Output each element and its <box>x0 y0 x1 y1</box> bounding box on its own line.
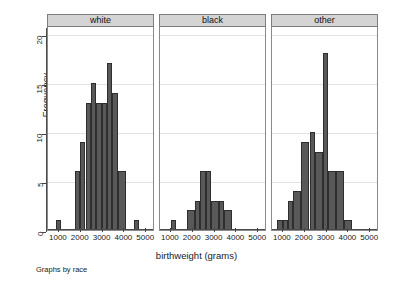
plot-area-white <box>47 27 154 231</box>
histogram-bar <box>224 210 232 230</box>
panel-other: other10002000300040005000 <box>271 14 378 231</box>
x-tick-mark <box>192 228 193 232</box>
x-tick-label: 5000 <box>136 233 154 242</box>
x-tick-mark <box>102 228 103 232</box>
x-axis-ticks-white: 10002000300040005000 <box>47 232 154 246</box>
figure-note: Graphs by race <box>36 265 87 274</box>
x-tick-mark <box>123 228 124 232</box>
x-tick-label: 5000 <box>248 233 266 242</box>
x-tick-label: 4000 <box>115 233 133 242</box>
histogram-bar <box>118 171 126 230</box>
bars-other <box>272 27 377 230</box>
x-tick-mark <box>170 228 171 232</box>
panel-white: white10002000300040005000 <box>47 14 154 231</box>
x-tick-label: 1000 <box>49 233 67 242</box>
bars-black <box>160 27 265 230</box>
x-tick-mark <box>369 228 370 232</box>
panel-title-other: other <box>271 14 378 27</box>
histogram-bar <box>315 152 323 230</box>
bars-white <box>48 27 153 230</box>
x-tick-label: 4000 <box>227 233 245 242</box>
x-tick-mark <box>347 228 348 232</box>
histogram-bar <box>301 142 309 230</box>
x-tick-mark <box>80 228 81 232</box>
x-tick-label: 2000 <box>295 233 313 242</box>
x-tick-mark <box>304 228 305 232</box>
x-tick-label: 3000 <box>205 233 223 242</box>
histogram-bar <box>328 171 336 230</box>
y-tick-mark <box>42 232 46 233</box>
histogram-bar <box>336 171 344 230</box>
x-tick-label: 2000 <box>183 233 201 242</box>
histogram-figure: Frequency 05101520 white1000200030004000… <box>0 0 393 289</box>
x-tick-label: 4000 <box>339 233 357 242</box>
x-axis-line <box>160 229 265 230</box>
x-axis-line <box>48 229 153 230</box>
x-axis-label: birthweight (grams) <box>0 250 393 261</box>
histogram-bar <box>211 201 219 230</box>
x-tick-mark <box>326 228 327 232</box>
plot-area-black <box>159 27 266 231</box>
y-axis-ticks: 05101520 <box>20 28 46 232</box>
panel-black: black10002000300040005000 <box>159 14 266 231</box>
histogram-bar <box>293 191 301 230</box>
x-tick-mark <box>235 228 236 232</box>
x-tick-label: 1000 <box>161 233 179 242</box>
x-axis-line <box>272 229 377 230</box>
x-tick-label: 2000 <box>71 233 89 242</box>
x-tick-label: 3000 <box>93 233 111 242</box>
x-tick-mark <box>58 228 59 232</box>
plot-area-other <box>271 27 378 231</box>
panel-title-white: white <box>47 14 154 27</box>
x-tick-label: 3000 <box>317 233 335 242</box>
x-tick-label: 5000 <box>360 233 378 242</box>
x-axis-ticks-black: 10002000300040005000 <box>159 232 266 246</box>
x-tick-label: 1000 <box>273 233 291 242</box>
x-axis-ticks-other: 10002000300040005000 <box>271 232 378 246</box>
x-tick-mark <box>214 228 215 232</box>
x-tick-mark <box>282 228 283 232</box>
panel-title-black: black <box>159 14 266 27</box>
x-tick-mark <box>145 228 146 232</box>
x-tick-mark <box>257 228 258 232</box>
